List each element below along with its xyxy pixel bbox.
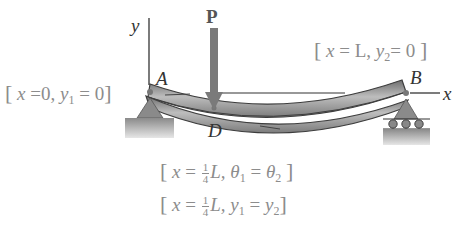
x-axis-label: x: [443, 84, 451, 103]
continuity-condition-slope: [ x = 14L, θ1 = θ2 ]: [160, 160, 293, 185]
continuity-condition-deflection: [ x = 14L, y1 = y2]: [160, 193, 287, 218]
boundary-condition-right: [ x = L, y2= 0 ]: [314, 39, 427, 63]
point-label-a: A: [156, 69, 168, 88]
deflected-beam: [146, 80, 408, 133]
beam-diagram: y x P A B D [ x =0, y1 = 0] [ x = L, y2=…: [0, 0, 456, 226]
point-label-b: B: [410, 68, 422, 87]
fraction-one-quarter: 14: [202, 195, 210, 218]
y-axis-label: y: [131, 16, 139, 35]
pin-a: [147, 89, 153, 95]
load-label-p: P: [206, 7, 218, 26]
pin-b: [403, 90, 409, 96]
load-arrow-p: [205, 28, 223, 110]
boundary-condition-left: [ x =0, y1 = 0]: [5, 82, 111, 106]
fraction-one-quarter: 14: [202, 162, 210, 185]
point-label-d: D: [208, 121, 222, 140]
